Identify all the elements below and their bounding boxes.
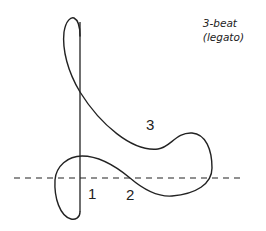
conducting-pattern-diagram: 3-beat (legato) 1 2 3 — [0, 0, 266, 231]
pattern-drawing: 1 2 3 — [0, 0, 266, 231]
beat-label-1: 1 — [88, 185, 96, 202]
beat-label-3: 3 — [146, 116, 154, 133]
beat-label-2: 2 — [126, 186, 134, 203]
